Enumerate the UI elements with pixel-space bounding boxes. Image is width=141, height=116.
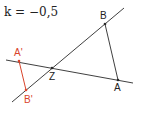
point-A <box>117 79 120 82</box>
ratio-label: k = −0,5 <box>4 5 58 19</box>
label-Z: Z <box>49 72 55 82</box>
label-A: A <box>114 83 121 93</box>
point-B-prime <box>25 89 28 92</box>
point-A-prime <box>18 60 21 63</box>
homothety-diagram: k = −0,5 B A Z A' B' <box>0 0 141 116</box>
segment-AB <box>105 24 118 80</box>
line-through-B-Z <box>12 8 124 102</box>
label-B-prime: B' <box>24 95 33 105</box>
label-A-prime: A' <box>14 48 23 58</box>
segment-A-prime-B-prime <box>19 61 26 90</box>
point-Z <box>51 67 54 70</box>
point-B <box>104 23 107 26</box>
label-B: B <box>100 11 107 21</box>
